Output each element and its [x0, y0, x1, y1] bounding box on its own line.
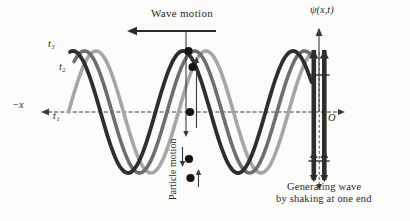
time-label-t3: t₃ [48, 39, 55, 50]
particle-dot [184, 47, 192, 55]
caption-line-1: Generating wave [287, 181, 372, 193]
transverse-wave-diagram: Wave motion ψ(x,t) −x t₃ t₂ t₁ O Particl… [0, 0, 410, 221]
particle-dot [186, 174, 194, 182]
psi-axis-label: ψ(x,t) [310, 5, 334, 16]
psi-axis-arrowhead [316, 28, 323, 36]
time-label-t2: t₂ [59, 62, 66, 73]
particle-arrowhead [180, 161, 186, 167]
caption: Generating wave by shaking at one end [276, 181, 372, 204]
negative-x-axis-label: −x [12, 100, 24, 111]
x-axis-right-arrowhead [338, 109, 345, 115]
origin-label: O [328, 113, 336, 124]
shaker-up-arrowhead [320, 50, 329, 59]
particle-motion-label: Particle motion [168, 116, 178, 200]
x-axis-left-arrowhead [41, 109, 49, 116]
particle-dot [186, 108, 194, 116]
particle-dot [185, 155, 193, 163]
shaker-up-arrowhead [310, 151, 318, 158]
time-label-t1: t₁ [53, 111, 60, 122]
particle-arrowhead [196, 169, 202, 175]
caption-line-2: by shaking at one end [276, 193, 372, 205]
wave-motion-arrowhead [127, 27, 137, 36]
particle-dot [188, 63, 196, 71]
particle-arrowhead [183, 131, 189, 137]
wave-motion-label: Wave motion [151, 8, 213, 19]
shaker-up-arrowhead [320, 151, 328, 158]
